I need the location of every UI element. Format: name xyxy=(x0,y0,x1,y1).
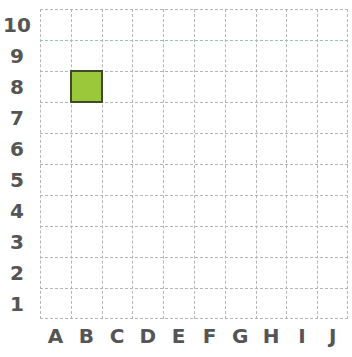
marked-cell-b8[interactable] xyxy=(70,70,103,103)
grid-line-horizontal xyxy=(40,40,348,41)
row-label-7: 7 xyxy=(0,108,34,128)
column-label-j: J xyxy=(317,326,348,346)
column-label-i: I xyxy=(286,326,317,346)
row-label-6: 6 xyxy=(0,139,34,159)
column-label-h: H xyxy=(256,326,287,346)
grid-line-horizontal xyxy=(40,257,348,258)
column-label-d: D xyxy=(132,326,163,346)
column-label-b: B xyxy=(71,326,102,346)
grid-line-horizontal xyxy=(40,195,348,196)
row-label-1: 1 xyxy=(0,294,34,314)
column-label-a: A xyxy=(40,326,71,346)
row-label-3: 3 xyxy=(0,232,34,252)
grid-line-horizontal xyxy=(40,133,348,134)
column-label-c: C xyxy=(102,326,133,346)
grid-line-horizontal xyxy=(40,226,348,227)
row-label-10: 10 xyxy=(0,15,34,35)
row-label-9: 9 xyxy=(0,46,34,66)
grid-line-horizontal xyxy=(40,288,348,289)
column-label-e: E xyxy=(163,326,194,346)
column-label-f: F xyxy=(194,326,225,346)
grid-line-horizontal xyxy=(40,164,348,165)
row-label-2: 2 xyxy=(0,263,34,283)
row-label-8: 8 xyxy=(0,77,34,97)
column-label-g: G xyxy=(225,326,256,346)
row-label-4: 4 xyxy=(0,201,34,221)
row-label-5: 5 xyxy=(0,170,34,190)
